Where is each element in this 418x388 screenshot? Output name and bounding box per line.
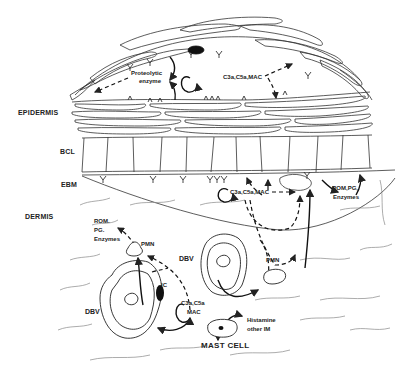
label-enzymes-left: Enzymes	[94, 236, 120, 242]
label-histamine: Histamine	[247, 317, 276, 323]
label-pmn-left: PMN	[141, 241, 154, 247]
label-enzymes-right: Enzymes	[333, 194, 359, 200]
dark-cell-epidermis	[188, 46, 204, 54]
label-epidermis: EPIDERMIS	[18, 109, 58, 116]
ebm-cell	[280, 174, 312, 190]
epidermis-upper-cells	[70, 17, 372, 100]
label-mast-cell: MAST CELL	[201, 342, 249, 350]
label-c3a-top: C3a,C5a,MAC	[223, 74, 262, 80]
epidermis-stacked-cells	[72, 92, 372, 134]
label-pg-left: PG.	[94, 227, 104, 233]
label-c3a-ebm: C3a,C5a,MAC	[230, 189, 269, 195]
label-ebm: EBM	[61, 181, 77, 188]
label-bcl: BCL	[60, 148, 75, 155]
basal-cell-layer	[82, 135, 372, 172]
label-rom-left: ROM.	[94, 218, 110, 224]
label-c3a-c5a-lower: C3a,C5a	[181, 300, 205, 306]
skin-diagram: EPIDERMIS BCL EBM DERMIS Proteolytic enz…	[0, 0, 418, 388]
dbv-upper-vessel	[201, 234, 247, 295]
label-dbv-lower: DBV	[85, 308, 100, 315]
label-pmn-right: PMN	[266, 257, 279, 263]
pmn-right-cell	[264, 269, 286, 284]
label-proteolytic: Proteolytic	[131, 70, 162, 76]
label-mac-lower: MAC	[187, 309, 201, 315]
label-dermis: DERMIS	[25, 213, 53, 220]
label-rom-pg-right: ROM,PG,	[332, 185, 358, 191]
label-dbv-upper: DBV	[179, 255, 194, 262]
label-ic: IC	[161, 282, 167, 288]
label-enzyme: enzyme	[139, 78, 161, 84]
label-other-im: other IM	[247, 326, 270, 332]
